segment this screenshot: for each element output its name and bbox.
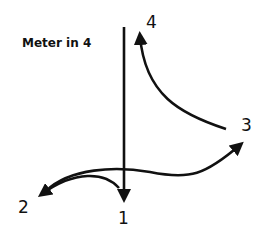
conducting-pattern [0, 0, 270, 246]
beat-label-4: 4 [146, 14, 157, 31]
beat-label-1: 1 [118, 210, 129, 227]
beat-4-stroke [140, 36, 226, 129]
beat-3-stroke [46, 145, 240, 191]
beat-label-2: 2 [18, 199, 29, 216]
beat-label-3: 3 [241, 117, 252, 134]
